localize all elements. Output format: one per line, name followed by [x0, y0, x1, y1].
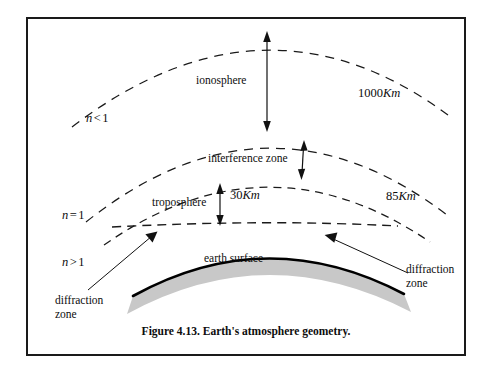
diffraction-zone-right-line2: zone — [406, 276, 454, 290]
surface-tangent-dashed-line — [112, 223, 398, 227]
figure-caption: Figure 4.13. Earth's atmosphere geometry… — [26, 325, 466, 338]
interference-zone-dimension-arrow — [298, 140, 308, 180]
troposphere-dimension-arrow — [216, 183, 223, 226]
refractive-index-at-troposphere-top: n=1 — [62, 208, 85, 222]
diffraction-zone-left-label: diffraction zone — [55, 293, 103, 322]
figure-page: ionosphere interference zone troposphere… — [0, 0, 491, 375]
interference-height-value: 85 — [386, 189, 399, 203]
troposphere-height-label: 30Km — [230, 188, 260, 202]
interference-height-unit: Km — [399, 189, 416, 203]
n-value: 1 — [102, 111, 108, 125]
diffraction-zone-right-line1: diffraction — [406, 262, 454, 276]
n-operator: > — [68, 255, 78, 269]
earth-crust-band — [127, 258, 411, 314]
diffraction-zone-right-label: diffraction zone — [406, 262, 454, 291]
n-value: 1 — [78, 208, 84, 222]
n-operator: < — [92, 111, 102, 125]
diffraction-zone-left-leader — [88, 231, 158, 290]
diffraction-zone-left-line2: zone — [55, 307, 103, 321]
earth-surface-label: earth surface — [204, 252, 263, 265]
ionosphere-height-label: 1000Km — [358, 86, 400, 100]
ionosphere-dimension-arrow — [263, 31, 271, 132]
refractive-index-below-surface: n>1 — [62, 255, 85, 269]
n-operator: = — [68, 208, 78, 222]
troposphere-height-unit: Km — [243, 188, 260, 202]
refractive-index-above-ionosphere: n<1 — [86, 111, 109, 125]
ionosphere-height-unit: Km — [383, 86, 400, 100]
diffraction-zone-left-line1: diffraction — [55, 293, 103, 307]
interference-height-label: 85Km — [386, 189, 416, 203]
troposphere-label: troposphere — [152, 196, 206, 209]
interference-zone-label: interference zone — [208, 152, 287, 165]
troposphere-height-value: 30 — [230, 188, 243, 202]
ionosphere-label: ionosphere — [196, 74, 246, 87]
ionosphere-height-value: 1000 — [358, 86, 383, 100]
n-value: 1 — [78, 255, 84, 269]
